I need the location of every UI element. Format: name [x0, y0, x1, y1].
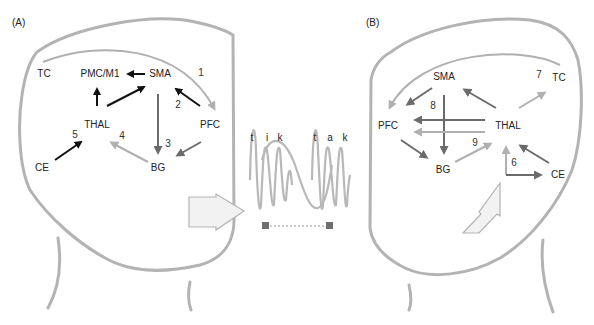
node-b-ce: CE [551, 170, 565, 180]
big-arrow-diagonal [463, 183, 500, 233]
node-b-pfc: PFC [378, 121, 398, 131]
node-b-tc: TC [552, 73, 565, 83]
arrow-thal-to-sma-b [465, 90, 496, 108]
syllable-i: i [266, 133, 268, 143]
node-a-sma: SMA [149, 69, 171, 79]
panel-label-b: (B) [366, 18, 379, 28]
arrow-5-ce-to-thal [55, 142, 81, 160]
arrow-sma-to-pfc [408, 88, 432, 104]
arrow-pfc-to-bg [178, 142, 201, 155]
number-8: 8 [430, 101, 436, 111]
number-9: 9 [472, 138, 478, 148]
number-5: 5 [72, 130, 78, 140]
syllable-a: a [327, 133, 333, 143]
arrow-1-tc-to-pfc [43, 50, 214, 108]
node-b-bg: BG [436, 165, 450, 175]
arrow-4-bg-to-thal [112, 143, 148, 162]
arrow-pfc-to-bg-b [401, 140, 426, 157]
arrow-thal-to-sma [107, 87, 144, 106]
number-7: 7 [536, 70, 542, 80]
number-2: 2 [175, 100, 181, 110]
syllable-t2: t [314, 133, 317, 143]
number-1: 1 [198, 68, 204, 78]
head-outline-b [370, 19, 581, 312]
arrows-panel-a [43, 50, 214, 162]
marker-start [262, 222, 269, 229]
neck-right-a [189, 282, 191, 310]
number-3: 3 [165, 139, 171, 149]
arrow-ce-to-thal [521, 146, 549, 163]
neck-right-b [542, 240, 553, 312]
node-a-tc: TC [37, 69, 50, 79]
arrows-panel-b [390, 54, 560, 175]
node-a-pmc-m1: PMC/M1 [81, 69, 120, 79]
big-arrow-right [189, 194, 244, 230]
head-outline-a [20, 19, 234, 310]
neck-left-b [409, 285, 411, 310]
syllable-k1: k [278, 133, 283, 143]
node-a-pfc: PFC [200, 120, 220, 130]
number-4: 4 [119, 131, 125, 141]
node-b-thal: THAL [495, 121, 521, 131]
arrow-7-thal-to-tc [519, 93, 544, 108]
panel-label-a: (A) [12, 18, 25, 28]
node-a-ce: CE [35, 163, 49, 173]
marker-end [326, 222, 333, 229]
syllable-k2: k [343, 133, 348, 143]
neck-left-a [48, 238, 60, 308]
node-b-sma: SMA [433, 72, 455, 82]
syllable-t1: t [251, 133, 254, 143]
node-a-bg: BG [151, 163, 165, 173]
timing-markers [262, 222, 333, 229]
diagram-canvas [0, 0, 594, 325]
node-a-thal: THAL [84, 120, 110, 130]
number-6: 6 [511, 158, 517, 168]
